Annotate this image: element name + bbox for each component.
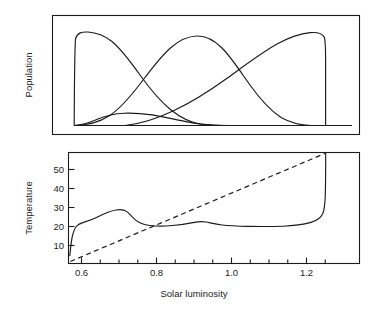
regulated-temperature-curve bbox=[70, 153, 326, 255]
top-panel-ylabel: Population bbox=[23, 53, 34, 98]
bottom-panel-xlabel: Solar luminosity bbox=[160, 288, 227, 299]
unregulated-temperature-curve bbox=[70, 153, 325, 261]
bottom-panel-ylabel: Temperature bbox=[23, 181, 34, 234]
population-curve-1 bbox=[74, 32, 231, 126]
y-tick-label-10: 10 bbox=[53, 240, 64, 251]
y-axis-ticks bbox=[69, 170, 75, 246]
y-tick-label-40: 40 bbox=[53, 183, 64, 194]
y-tick-label-50: 50 bbox=[53, 164, 64, 175]
x-tick-label-0-8: 0.8 bbox=[150, 267, 163, 278]
bottom-panel-frame bbox=[69, 153, 360, 264]
population-curve-3 bbox=[125, 32, 326, 125]
figure-container: Population 50 40 30 20 10 bbox=[0, 0, 376, 317]
x-tick-label-0-6: 0.6 bbox=[75, 267, 88, 278]
x-axis-minor-ticks bbox=[100, 260, 325, 264]
y-tick-label-20: 20 bbox=[53, 221, 64, 232]
top-panel: Population bbox=[23, 16, 360, 135]
x-tick-label-1-2: 1.2 bbox=[300, 267, 313, 278]
x-axis-tick-labels: 0.6 0.8 1.0 1.2 bbox=[75, 267, 313, 278]
population-curve-2 bbox=[75, 36, 327, 126]
top-panel-frame bbox=[53, 16, 360, 135]
y-tick-label-30: 30 bbox=[53, 202, 64, 213]
bottom-panel: 50 40 30 20 10 bbox=[23, 153, 360, 300]
x-tick-label-1-0: 1.0 bbox=[225, 267, 238, 278]
figure-svg: Population 50 40 30 20 10 bbox=[0, 0, 376, 317]
y-axis-tick-labels: 50 40 30 20 10 bbox=[53, 164, 64, 251]
